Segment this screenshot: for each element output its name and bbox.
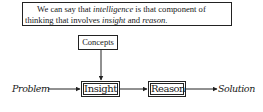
diagram-connectors [0,0,263,112]
output-label-solution: Solution [218,83,255,94]
node-reason: Reason [148,81,186,97]
input-label-problem: Problem [12,83,50,94]
node-concepts: Concepts [78,35,118,50]
node-insight: Insight [81,81,120,97]
